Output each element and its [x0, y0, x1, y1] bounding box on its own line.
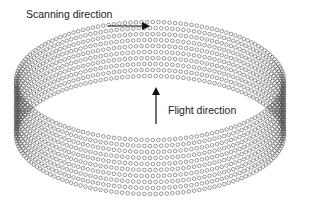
sample-dot: [205, 74, 209, 78]
sample-dot: [154, 156, 158, 160]
sample-dot: [56, 90, 60, 94]
sample-dot: [137, 144, 141, 148]
sample-dot: [229, 174, 233, 178]
sample-dot: [134, 186, 138, 190]
sample-dot: [176, 167, 180, 171]
sample-dot: [154, 192, 158, 196]
sample-dot: [162, 33, 166, 37]
sample-dot: [41, 86, 45, 90]
sample-dot: [118, 34, 122, 38]
sample-dot: [67, 68, 71, 72]
sample-dot: [94, 163, 98, 167]
sample-dot: [173, 33, 177, 37]
sample-dot: [148, 144, 152, 148]
sample-dot: [208, 44, 212, 48]
sample-dot: [154, 62, 158, 66]
sample-dot: [112, 46, 116, 50]
sample-dot: [208, 32, 212, 36]
sample-dot: [112, 184, 116, 188]
sample-dot: [227, 157, 231, 161]
sample-dot: [213, 34, 217, 38]
sample-dot: [89, 186, 93, 190]
sample-dot: [162, 174, 166, 178]
sample-dot: [165, 75, 169, 79]
sample-dot: [272, 86, 276, 90]
sample-dot: [215, 178, 219, 182]
sample-dot: [79, 59, 83, 63]
sample-dot: [59, 47, 63, 51]
sample-dot: [47, 118, 51, 122]
sample-dot: [240, 42, 244, 46]
sample-dot: [198, 42, 202, 46]
sample-dot: [176, 51, 180, 55]
sample-dot: [41, 62, 45, 66]
sample-dot: [145, 186, 149, 190]
sample-dot: [234, 149, 238, 153]
sample-dot: [272, 120, 276, 124]
sample-dot: [52, 162, 56, 166]
sample-dot: [255, 145, 259, 149]
sample-dot: [86, 63, 90, 67]
sample-dot: [210, 131, 214, 135]
sample-dot: [192, 141, 196, 145]
sample-dot: [94, 151, 98, 155]
sample-dot: [171, 167, 175, 171]
sample-dot: [126, 167, 130, 171]
sample-dot: [242, 73, 246, 77]
sample-dot: [272, 74, 276, 78]
sample-dot: [115, 52, 119, 56]
sample-dot: [28, 117, 32, 121]
sample-dot: [137, 50, 141, 54]
sample-dot: [79, 136, 83, 140]
sample-dot: [246, 132, 250, 136]
sample-dot: [251, 48, 255, 52]
sample-dot: [84, 161, 88, 165]
sample-dot: [250, 89, 254, 93]
sample-dot: [67, 80, 71, 84]
sample-dot: [251, 72, 255, 76]
sample-dot: [123, 185, 127, 189]
sample-dot: [238, 135, 242, 139]
sample-dot: [86, 155, 90, 159]
sample-dot: [137, 192, 141, 196]
sample-dot: [52, 138, 56, 142]
sample-dot: [59, 59, 63, 63]
sample-dot: [40, 45, 44, 49]
sample-dot: [271, 79, 275, 83]
sample-dot: [86, 75, 90, 79]
sample-dot: [51, 63, 55, 67]
sample-dot: [162, 162, 166, 166]
sample-dot: [59, 71, 63, 75]
sample-dot: [120, 75, 124, 79]
sample-dot: [179, 34, 183, 38]
sample-dot: [145, 162, 149, 166]
sample-dot: [81, 76, 85, 80]
sample-dot: [145, 44, 149, 48]
sample-dot: [84, 58, 88, 62]
sample-dot: [140, 186, 144, 190]
sample-dot: [258, 167, 262, 171]
sample-dot: [236, 65, 240, 69]
sample-dot: [218, 160, 222, 164]
sample-dot: [231, 143, 235, 147]
sample-dot: [218, 148, 222, 152]
sample-dot: [190, 71, 194, 75]
sample-dot: [205, 26, 209, 30]
sample-dot: [229, 80, 233, 84]
sample-dot: [195, 183, 199, 187]
sample-dot: [131, 144, 135, 148]
sample-dot: [182, 76, 186, 80]
sample-dot: [179, 70, 183, 74]
sample-dot: [179, 22, 183, 26]
sample-dot: [159, 180, 163, 184]
sample-dot: [49, 82, 53, 86]
sample-dot: [54, 133, 58, 137]
sample-dot: [168, 69, 172, 73]
sample-dot: [171, 75, 175, 79]
sample-dot: [257, 138, 261, 142]
sample-dot: [165, 51, 169, 55]
sample-dot: [220, 129, 224, 133]
sample-dot: [51, 168, 55, 172]
sample-dot: [79, 71, 83, 75]
sample-dot: [99, 152, 103, 156]
